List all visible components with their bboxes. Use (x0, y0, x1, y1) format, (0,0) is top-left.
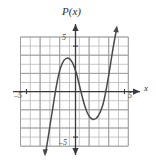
coordinate-plane-svg (0, 0, 156, 161)
graph-figure: P(x) x –5 5 5 –5 (0, 0, 156, 161)
